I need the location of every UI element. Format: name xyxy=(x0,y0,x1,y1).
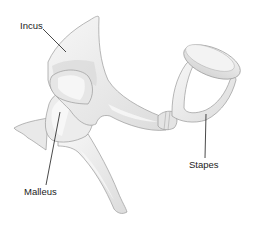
label-stapes: Stapes xyxy=(189,159,219,170)
ossicles-diagram: Incus Malleus Stapes xyxy=(0,0,262,225)
label-malleus: Malleus xyxy=(24,186,57,197)
label-incus: Incus xyxy=(20,20,43,31)
stapes-bone xyxy=(172,38,245,122)
